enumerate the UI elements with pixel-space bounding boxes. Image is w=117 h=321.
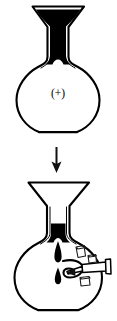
syringe-barrel	[82, 262, 107, 273]
figure-root: (+)	[0, 0, 117, 321]
plus-sign-label: (+)	[51, 87, 65, 100]
chemistry-apparatus-diagram: (+)	[0, 0, 117, 321]
syringe-flange	[106, 259, 112, 274]
